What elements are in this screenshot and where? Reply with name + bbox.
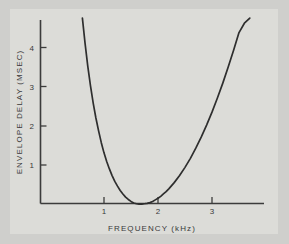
figure-page: 1 2 3 4 1 2 3 FREQUENCY (kHz) ENVELOPE D… [0,0,289,244]
x-tick-label-3: 3 [210,207,215,216]
y-tick-label-1: 1 [30,161,35,170]
y-tick-marks [41,48,47,166]
x-tick-label-1: 1 [102,207,107,216]
y-axis-title: ENVELOPE DELAY (MSEC) [15,50,24,175]
x-axis-title: FREQUENCY (kHz) [108,224,196,233]
y-tick-label-2: 2 [30,122,35,131]
y-tick-label-4: 4 [30,44,35,53]
y-tick-label-3: 3 [30,83,35,92]
envelope-delay-chart: 1 2 3 4 1 2 3 FREQUENCY (kHz) ENVELOPE D… [0,0,289,244]
envelope-delay-curve [82,18,249,204]
x-tick-label-2: 2 [156,207,161,216]
